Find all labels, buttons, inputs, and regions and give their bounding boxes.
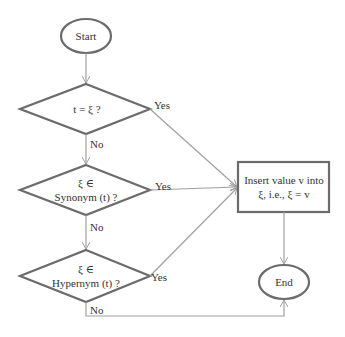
end-label: End (275, 277, 293, 288)
decision1-label: t = ξ ? (73, 104, 100, 115)
decision3-no-label: No (90, 305, 103, 316)
decision3-label-line1: ξ ∈ (52, 262, 120, 276)
decision1-yes-label: Yes (154, 100, 170, 111)
edge-decision1-yes (150, 109, 237, 187)
start-label: Start (76, 31, 97, 42)
decision2-label-line2: Synonym (t) ? (55, 190, 118, 204)
decision3-label: ξ ∈ Hypernym (t) ? (52, 262, 120, 290)
process-label-line2: ξ, i.e., ξ = v (244, 187, 324, 201)
decision1-no-label: No (90, 139, 103, 150)
process-label: Insert value v into ξ, i.e., ξ = v (244, 173, 324, 201)
decision2-yes-label: Yes (155, 181, 171, 192)
flowchart: Start t = ξ ? ξ ∈ Synonym (t) ? ξ ∈ Hype… (0, 0, 345, 337)
decision3-yes-label: Yes (151, 272, 167, 283)
decision2-label: ξ ∈ Synonym (t) ? (55, 176, 118, 204)
decision2-label-line1: ξ ∈ (55, 176, 118, 190)
edge-decision3-yes (150, 188, 237, 276)
decision2-no-label: No (90, 222, 103, 233)
decision3-label-line2: Hypernym (t) ? (52, 276, 120, 290)
process-label-line1: Insert value v into (244, 173, 324, 187)
edge-decision3-no (86, 300, 284, 316)
